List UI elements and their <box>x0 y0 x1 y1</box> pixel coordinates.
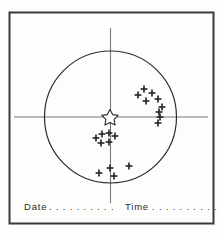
central-star-icon <box>102 110 118 126</box>
data-point <box>99 131 106 138</box>
data-point <box>107 165 114 172</box>
data-point <box>155 96 162 103</box>
date-field-input[interactable]: . . . . . . . . . . <box>49 201 114 212</box>
observation-form-sheet: Date . . . . . . . . . . Time . . . . . … <box>0 0 222 237</box>
data-point <box>96 170 103 177</box>
date-field-label: Date <box>24 201 47 212</box>
data-point <box>112 133 119 140</box>
data-point <box>106 139 113 146</box>
data-point <box>93 135 100 142</box>
star-chart-diagram: Date . . . . . . . . . . Time . . . . . … <box>0 0 222 237</box>
data-point <box>141 86 148 93</box>
data-point <box>98 140 105 147</box>
data-point <box>157 114 164 121</box>
data-point <box>106 130 113 137</box>
data-point-group <box>93 86 166 180</box>
time-field-input[interactable]: . . . . . . . . . . <box>152 201 217 212</box>
data-point <box>126 163 133 170</box>
data-point <box>149 90 156 97</box>
time-field-label: Time <box>125 201 149 212</box>
data-point <box>143 98 150 105</box>
data-point <box>155 120 162 127</box>
data-point <box>111 173 118 180</box>
data-point <box>135 92 142 99</box>
